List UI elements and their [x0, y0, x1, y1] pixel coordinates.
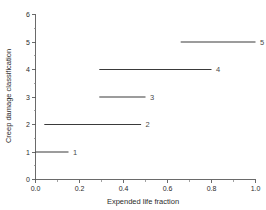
y-tick-label: 2 — [26, 121, 30, 128]
series-label-3: 3 — [150, 93, 154, 102]
series-label-4: 4 — [216, 65, 220, 74]
x-tick-label: 1.0 — [251, 185, 261, 192]
x-tick-label: 0.2 — [75, 185, 85, 192]
y-tick-label: 5 — [26, 39, 30, 46]
y-tick-label: 3 — [26, 94, 30, 101]
chart-background — [0, 0, 266, 210]
x-tick-label: 0.6 — [163, 185, 173, 192]
series-label-5: 5 — [260, 38, 264, 47]
y-tick-label: 0 — [26, 176, 30, 183]
chart-figure: 0123456 0.00.20.40.60.81.0 12345 Expende… — [0, 0, 266, 210]
y-axis-title: Creep damage classification — [4, 49, 13, 143]
x-tick-label: 0.0 — [31, 185, 41, 192]
y-tick-label: 6 — [26, 11, 30, 18]
x-axis-title: Expended life fraction — [107, 197, 179, 206]
x-tick-label: 0.4 — [119, 185, 129, 192]
y-tick-label: 4 — [26, 66, 30, 73]
creep-damage-classification-chart: 0123456 0.00.20.40.60.81.0 12345 Expende… — [0, 0, 266, 210]
series-label-1: 1 — [73, 148, 77, 157]
series-label-2: 2 — [146, 120, 150, 129]
x-tick-label: 0.8 — [207, 185, 217, 192]
y-tick-label: 1 — [26, 149, 30, 156]
